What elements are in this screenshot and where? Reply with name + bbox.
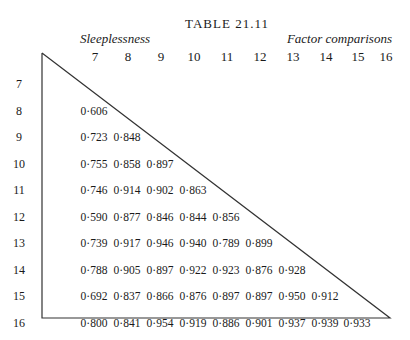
table-cell: 0·933 <box>337 317 377 329</box>
column-header: 16 <box>366 49 406 65</box>
table-cell: 0·897 <box>140 158 180 170</box>
row-header: 11 <box>4 183 34 198</box>
table-cell: 0·863 <box>173 184 213 196</box>
row-header: 13 <box>4 236 34 251</box>
row-header: 16 <box>4 316 34 331</box>
row-header: 7 <box>4 77 34 92</box>
row-header: 9 <box>4 130 34 145</box>
table-cell: 0·848 <box>107 131 147 143</box>
table-cell: 0·899 <box>239 237 279 249</box>
row-header: 10 <box>4 157 34 172</box>
table-cell: 0·928 <box>272 264 312 276</box>
table-cell: 0·606 <box>74 105 114 117</box>
row-header: 15 <box>4 289 34 304</box>
row-header: 14 <box>4 263 34 278</box>
row-header: 12 <box>4 210 34 225</box>
row-header: 8 <box>4 104 34 119</box>
table-cell: 0·856 <box>206 211 246 223</box>
table-cell: 0·912 <box>305 290 345 302</box>
